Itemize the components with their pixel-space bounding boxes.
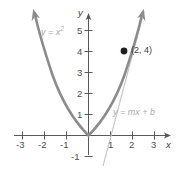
x-axis-label: x (166, 140, 171, 150)
x-tick-label-3: 3 (151, 140, 156, 150)
y-tick-label-5: 5 (77, 26, 82, 36)
y-tick-label-3: 3 (77, 68, 82, 78)
y-tick-label-4: 4 (77, 47, 82, 57)
x-tick-label-neg3: -3 (16, 140, 24, 150)
graph-figure: y x -3 -2 -1 1 2 3 5 4 3 2 1 -1 y = x2 y… (0, 0, 178, 171)
x-tick-label-neg1: -1 (60, 140, 68, 150)
data-point-2-4 (121, 48, 128, 55)
x-tick-label-2: 2 (129, 140, 134, 150)
y-tick-label-neg1: -1 (71, 152, 79, 162)
y-tick-label-1: 1 (77, 110, 82, 120)
y-axis-label: y (78, 8, 83, 18)
x-tick-label-1: 1 (108, 140, 113, 150)
parabola-equation-text: y = x (41, 27, 60, 37)
x-tick-label-neg2: -2 (38, 140, 46, 150)
y-tick-label-2: 2 (77, 89, 82, 99)
line-equation-label: y = mx + b (113, 108, 155, 117)
parabola-equation-label: y = x2 (41, 26, 64, 37)
parabola-exponent: 2 (60, 25, 64, 32)
x-axis (14, 133, 171, 139)
point-coordinate-label: (2, 4) (131, 46, 152, 55)
